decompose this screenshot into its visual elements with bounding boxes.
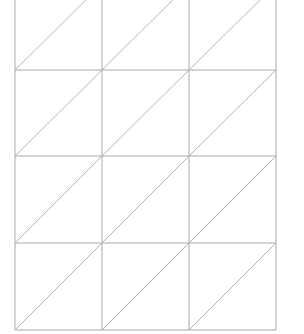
triangulated-grid-diagram bbox=[0, 0, 304, 334]
cell-diagonal bbox=[15, 156, 102, 243]
cell-diagonal bbox=[189, 70, 276, 156]
cell-diagonal bbox=[102, 156, 189, 243]
cell-diagonal bbox=[15, 0, 86, 70]
diagonal-lines bbox=[15, 0, 276, 330]
cell-diagonal bbox=[102, 0, 173, 70]
cell-diagonal bbox=[102, 243, 189, 330]
cell-diagonal bbox=[189, 156, 276, 243]
cell-diagonal bbox=[189, 243, 276, 330]
grid-lines bbox=[15, 0, 276, 330]
cell-diagonal bbox=[102, 70, 189, 156]
cell-diagonal bbox=[189, 0, 260, 70]
cell-diagonal bbox=[15, 243, 102, 330]
cell-diagonal bbox=[15, 70, 102, 156]
